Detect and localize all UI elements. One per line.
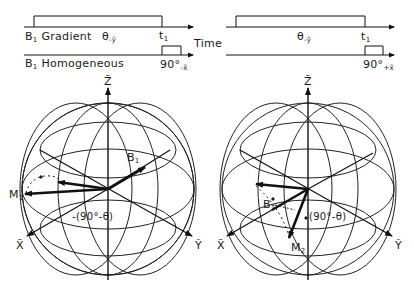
precession-path-left xyxy=(26,176,60,193)
y-axis-label-right: Ỹ xyxy=(395,240,402,251)
b1-label-left: B1 xyxy=(127,152,140,165)
hard-pulse-label-right: 90°+x̃ xyxy=(363,59,394,72)
bloch-sphere-left xyxy=(20,88,196,280)
hard-pulse-label-left: 90°-x̃ xyxy=(160,59,188,72)
z-axis-label-right: Z̃ xyxy=(304,76,312,87)
intermediate-vector-right xyxy=(256,184,308,189)
b1-homogeneous-label: B1 Homogeneous xyxy=(25,58,124,71)
t1-label-left: t1 xyxy=(159,30,168,43)
soft-pulse-right xyxy=(236,16,365,27)
intermediate-vector-left xyxy=(58,182,108,189)
m2-vector-right xyxy=(289,189,308,238)
t1-label-right: t1 xyxy=(361,31,370,44)
angle-label-left: -(90°-θ) xyxy=(72,212,113,222)
m1-vector-left xyxy=(25,189,108,194)
hard-pulse-right xyxy=(365,46,383,55)
angle-label-right: (90°-θ) xyxy=(309,212,346,222)
hard-pulse-left xyxy=(162,46,181,55)
soft-pulse-label-left: θ-ỹ xyxy=(102,31,116,44)
x-axis-label-left: X̃ xyxy=(16,240,24,251)
m1-label: M1 xyxy=(9,189,24,202)
soft-pulse-label-right: θ-ỹ xyxy=(297,31,311,44)
z-axis-label-left: Z̃ xyxy=(104,76,112,87)
b1-label-right: B1 xyxy=(263,199,276,212)
y-axis-label-left: Ỹ xyxy=(195,240,202,251)
time-label: Time xyxy=(194,38,222,49)
b1-gradient-label: B1 Gradient xyxy=(25,31,92,44)
bloch-sphere-right xyxy=(220,88,396,280)
x-axis-label-right: X̃ xyxy=(217,240,225,251)
soft-pulse-left xyxy=(34,16,162,27)
m2-label: M2 xyxy=(291,242,306,255)
